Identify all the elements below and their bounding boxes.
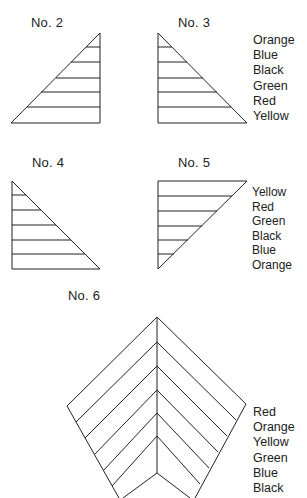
legend-item: Green [253,451,295,466]
figure-no2-triangle [11,33,100,123]
legend-item: Red [252,200,292,215]
legend-item: Orange [253,420,295,435]
legend-item: Black [253,481,295,496]
legend-item: Blue [252,243,292,258]
legend-item: Yellow [252,185,292,200]
legend-no6: Red Orange Yellow Green Blue Black [253,405,295,496]
figure-label-no6: No. 6 [68,288,100,303]
figure-no4-triangle [12,181,100,269]
legend-item: Black [252,229,292,244]
figure-no3-triangle [158,33,247,123]
figure-label-no2: No. 2 [31,15,63,30]
legend-no3: Orange Blue Black Green Red Yellow [253,33,295,124]
figure-no6-chevrons [67,317,246,498]
legend-item: Orange [253,33,295,48]
legend-item: Orange [252,258,292,273]
legend-item: Red [253,405,295,420]
legend-item: Red [253,94,295,109]
legend-item: Yellow [253,435,295,450]
legend-no5: Yellow Red Green Black Blue Orange [252,185,292,272]
legend-item: Black [253,63,295,78]
legend-item: Yellow [253,109,295,124]
legend-item: Blue [253,48,295,63]
figure-label-no5: No. 5 [178,155,210,170]
figure-label-no4: No. 4 [32,155,64,170]
legend-item: Green [252,214,292,229]
legend-item: Green [253,79,295,94]
figure-no5-triangle [158,181,247,269]
legend-item: Blue [253,466,295,481]
figure-label-no3: No. 3 [178,15,210,30]
